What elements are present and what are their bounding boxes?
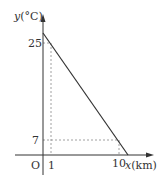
x-axis-label: x(km): [125, 160, 157, 171]
y-axis-label: y(°C): [14, 11, 43, 22]
x-axis-arrow-icon: [146, 153, 154, 158]
data-line: [43, 33, 128, 155]
line-chart: [0, 0, 165, 183]
y-unit: (°C): [20, 10, 43, 23]
y-tick-25: 25: [28, 38, 42, 49]
origin-label: O: [31, 160, 40, 171]
x-tick-1: 1: [48, 160, 55, 171]
x-tick-10: 10: [112, 158, 126, 169]
y-tick-7: 7: [32, 135, 39, 146]
x-unit: (km): [131, 159, 157, 172]
